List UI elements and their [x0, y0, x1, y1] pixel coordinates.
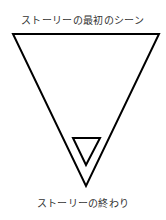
- story-end-label: ストーリーの終わり: [0, 195, 166, 210]
- inner-triangle: [73, 138, 100, 165]
- funnel-diagram: [0, 0, 166, 220]
